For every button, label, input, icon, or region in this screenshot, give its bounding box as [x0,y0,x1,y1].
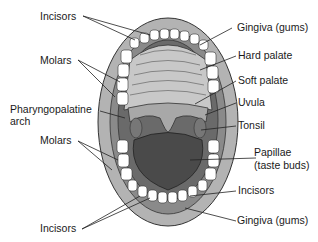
label-uvula: Uvula [238,97,265,108]
mouth-illustration [0,0,318,242]
label-soft-palate: Soft palate [238,75,288,86]
label-tonsil: Tonsil [238,120,265,131]
label-gingiva-top: Gingiva (gums) [237,22,308,33]
label-papillae-1: Papillae [254,147,291,158]
label-molars-bottom: Molars [40,135,72,146]
hard-palate [124,45,212,110]
label-gingiva-bottom: Gingiva (gums) [237,215,308,226]
tonsil-right [194,118,206,138]
label-molars-top: Molars [40,55,72,66]
label-papillae-2: (taste buds) [254,160,309,171]
label-pharyngopalatine-arch-2: arch [10,116,30,127]
tonsil-left [130,118,142,138]
label-incisors-bottom-right: Incisors [238,185,274,196]
label-hard-palate: Hard palate [238,50,292,61]
label-incisors-top: Incisors [40,11,76,22]
label-pharyngopalatine-arch-1: Pharyngopalatine [10,104,92,115]
label-incisors-bottom-left: Incisors [40,223,76,234]
